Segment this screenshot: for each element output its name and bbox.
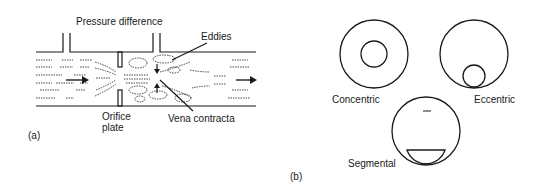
concentric-plate-outer bbox=[340, 20, 408, 88]
concentric-label: Concentric bbox=[332, 94, 380, 105]
orifice-plate-top bbox=[118, 52, 122, 67]
orifice-diagram bbox=[0, 0, 533, 192]
orifice-plate-types bbox=[340, 20, 508, 165]
inlet-streamlines bbox=[36, 60, 116, 98]
orifice-plate-label-line1: Orifice bbox=[102, 111, 131, 122]
concentric-plate-hole bbox=[361, 41, 387, 67]
segmental-plate-outer bbox=[392, 97, 460, 165]
eccentric-label: Eccentric bbox=[474, 94, 515, 105]
eccentric-plate-hole bbox=[463, 65, 485, 87]
panel-b-tag: (b) bbox=[290, 171, 302, 182]
eddies bbox=[129, 55, 191, 102]
segmental-label: Segmental bbox=[348, 158, 396, 169]
pipe-flow-diagram bbox=[36, 33, 257, 111]
orifice-plate-bottom bbox=[118, 90, 122, 106]
vena-contracta-streamlines bbox=[124, 60, 250, 98]
pressure-difference-label: Pressure difference bbox=[76, 16, 163, 27]
panel-a-tag: (a) bbox=[28, 130, 40, 141]
vena-contracta-label: Vena contracta bbox=[168, 113, 235, 124]
eccentric-plate-outer bbox=[440, 20, 508, 88]
eddies-label: Eddies bbox=[201, 31, 232, 42]
orifice-plate-label-line2: plate bbox=[102, 122, 124, 133]
flow-arrow-icon bbox=[66, 64, 257, 93]
